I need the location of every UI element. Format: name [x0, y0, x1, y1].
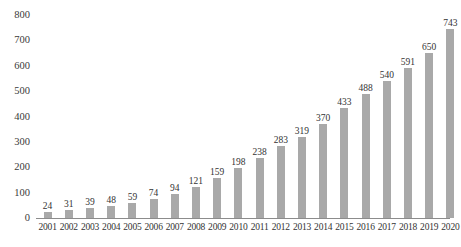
bar-group: 121 [185, 0, 206, 218]
y-axis-tick-label: 200 [0, 162, 30, 172]
bar-group: 319 [291, 0, 312, 218]
y-axis-tick-label: 400 [0, 112, 30, 122]
bar-group: 433 [334, 0, 355, 218]
bar-group: 48 [101, 0, 122, 218]
bar [192, 187, 200, 218]
x-axis-tick-label: 2014 [312, 221, 334, 234]
bar-group: 31 [58, 0, 79, 218]
bar-value-label: 121 [189, 176, 203, 186]
x-axis-tick-label: 2002 [58, 221, 80, 234]
bar-value-label: 31 [64, 199, 74, 209]
x-axis-tick-label: 2005 [121, 221, 143, 234]
bar [383, 81, 391, 218]
bar-value-label: 650 [422, 42, 436, 52]
bar-value-label: 74 [149, 188, 159, 198]
bar-group: 650 [419, 0, 440, 218]
x-axis-tick-label: 2004 [100, 221, 122, 234]
bar [425, 53, 433, 218]
bar [298, 137, 306, 218]
bar [446, 29, 454, 218]
y-axis-tick-label: 700 [0, 35, 30, 45]
bar-value-label: 591 [401, 57, 415, 67]
bar-group: 370 [313, 0, 334, 218]
x-axis-tick-label: 2001 [37, 221, 59, 234]
x-axis-tick-label: 2006 [143, 221, 165, 234]
x-axis-tick-label: 2015 [333, 221, 355, 234]
plot-area: 2431394859749412115919823828331937043348… [34, 0, 458, 247]
x-axis-tick-label: 2016 [355, 221, 377, 234]
bar [107, 206, 115, 218]
bar [128, 203, 136, 218]
y-axis-tick-label: 0 [0, 213, 30, 223]
bar-series: 2431394859749412115919823828331937043348… [34, 0, 458, 219]
bar-value-label: 159 [210, 167, 224, 177]
x-axis-tick-label: 2017 [376, 221, 398, 234]
bar [234, 168, 242, 218]
y-axis-tick-label: 300 [0, 137, 30, 147]
bar [362, 94, 370, 218]
y-axis-tick-label: 600 [0, 61, 30, 71]
x-axis-tick-label: 2003 [79, 221, 101, 234]
x-axis-tick-label: 2013 [291, 221, 313, 234]
bar-group: 540 [376, 0, 397, 218]
x-axis-tick-label: 2008 [185, 221, 207, 234]
bar [277, 146, 285, 218]
bar-group: 24 [37, 0, 58, 218]
bar-value-label: 39 [85, 197, 95, 207]
y-axis-tick-label: 800 [0, 10, 30, 20]
x-axis-tick-label: 2007 [164, 221, 186, 234]
bar [256, 158, 264, 218]
bar-group: 74 [143, 0, 164, 218]
bar [86, 208, 94, 218]
bar-value-label: 198 [231, 157, 245, 167]
bar [404, 68, 412, 218]
bar-value-label: 283 [274, 135, 288, 145]
bar-value-label: 238 [252, 147, 266, 157]
bar-value-label: 540 [380, 70, 394, 80]
x-axis-tick-label: 2019 [418, 221, 440, 234]
x-axis-tick-label: 2020 [439, 221, 461, 234]
bar [319, 124, 327, 218]
y-axis-tick-label: 100 [0, 188, 30, 198]
bar-value-label: 48 [106, 195, 116, 205]
bar-group: 743 [440, 0, 461, 218]
x-axis-tick-label: 2011 [249, 221, 271, 234]
x-axis-tick-label: 2010 [227, 221, 249, 234]
x-axis-tick-label: 2012 [270, 221, 292, 234]
bar [171, 194, 179, 218]
bar-group: 283 [270, 0, 291, 218]
bar-value-label: 24 [43, 201, 53, 211]
bar [340, 108, 348, 218]
x-axis-tick-label: 2018 [397, 221, 419, 234]
bar-value-label: 94 [170, 183, 180, 193]
bar-group: 159 [207, 0, 228, 218]
bar-group: 591 [397, 0, 418, 218]
y-axis-tick-label: 500 [0, 86, 30, 96]
bar-value-label: 59 [128, 192, 138, 202]
bar-group: 238 [249, 0, 270, 218]
bar-value-label: 319 [295, 126, 309, 136]
bar-value-label: 488 [358, 83, 372, 93]
bar-value-label: 433 [337, 97, 351, 107]
bar [213, 178, 221, 218]
bar-value-label: 370 [316, 113, 330, 123]
x-axis-labels: 2001200220032004200520062007200820092010… [34, 221, 458, 237]
bar [150, 199, 158, 218]
bar-group: 39 [79, 0, 100, 218]
bar-group: 488 [355, 0, 376, 218]
bar-value-label: 743 [443, 18, 457, 28]
bar-group: 198 [228, 0, 249, 218]
bar [65, 210, 73, 218]
bar-group: 59 [122, 0, 143, 218]
bar-group: 94 [164, 0, 185, 218]
y-axis: 8007006005004003002001000 [0, 0, 34, 247]
x-axis-tick-label: 2009 [206, 221, 228, 234]
bar [44, 212, 52, 218]
